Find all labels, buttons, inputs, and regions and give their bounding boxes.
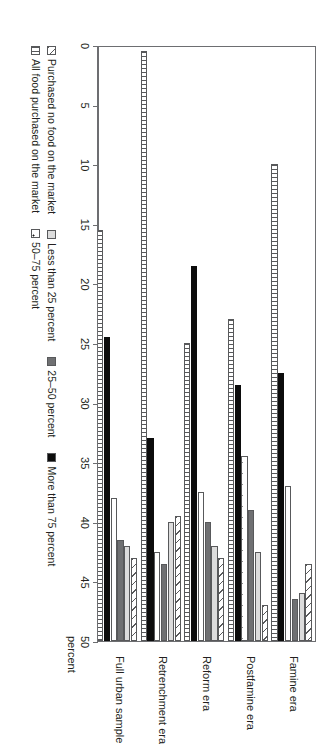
axis-tick-label: 5 xyxy=(79,103,91,109)
category-label-full-urban-sample: Full urban sample xyxy=(114,656,126,743)
legend-item: 50–75 percent xyxy=(30,229,42,309)
legend-item: Less than 25 percent xyxy=(46,230,58,341)
bar-full-urban-sample-less-than-25-percent xyxy=(124,546,130,641)
axis-tick xyxy=(93,46,98,47)
bar-famine-era-all-food-purchased-on-the-market xyxy=(271,164,277,641)
bar-reform-era-more-than-75-percent xyxy=(191,266,197,641)
axis-tick xyxy=(93,106,98,107)
legend-item: 25–50 percent xyxy=(46,357,58,437)
category-label-reform-era: Reform era xyxy=(201,656,213,711)
legend-swatch-icon xyxy=(32,46,41,55)
legend-row-1: Purchased no food on the marketLess than… xyxy=(46,46,58,646)
axis-tick-label: 20 xyxy=(79,278,91,290)
bar-famine-era-more-than-75-percent xyxy=(278,373,284,641)
bar-famine-era-50-75-percent xyxy=(285,486,291,641)
legend-label: 50–75 percent xyxy=(30,242,42,309)
bar-reform-era-less-than-25-percent xyxy=(211,546,217,641)
bar-famine-era-purchased-no-food-on-the-market xyxy=(305,564,311,641)
bar-full-urban-sample-purchased-no-food-on-the-market xyxy=(131,558,137,641)
legend-label: Purchased no food on the market xyxy=(46,59,58,214)
plot-area xyxy=(98,46,316,642)
bar-famine-era-25-50-percent xyxy=(292,599,298,641)
axis-tick xyxy=(93,225,98,226)
legend-swatch-icon xyxy=(32,229,41,238)
bar-postfamine-era-all-food-purchased-on-the-market xyxy=(228,319,234,641)
bar-postfamine-era-purchased-no-food-on-the-market xyxy=(262,605,268,641)
axis-tick-label: 10 xyxy=(79,159,91,171)
category-label-famine-era: Famine era xyxy=(288,656,300,712)
bar-reform-era-50-75-percent xyxy=(198,492,204,641)
axis-tick xyxy=(93,344,98,345)
legend-item: All food purchased on the market xyxy=(30,46,42,213)
bar-postfamine-era-25-50-percent xyxy=(248,510,254,641)
category-label-postfamine-era: Postfamine era xyxy=(245,656,257,730)
bar-reform-era-all-food-purchased-on-the-market xyxy=(184,343,190,641)
y-axis-line xyxy=(98,46,316,47)
legend-swatch-icon xyxy=(48,357,57,366)
axis-tick xyxy=(93,404,98,405)
legend-label: Less than 25 percent xyxy=(46,243,58,341)
axis-tick-label: 15 xyxy=(79,219,91,231)
legend-row-2: All food purchased on the market50–75 pe… xyxy=(30,46,42,646)
bar-retrenchment-era-purchased-no-food-on-the-market xyxy=(175,516,181,641)
legend-swatch-icon xyxy=(48,46,57,55)
legend-label: All food purchased on the market xyxy=(30,59,42,213)
legend-swatch-icon xyxy=(48,453,57,462)
bar-postfamine-era-50-75-percent xyxy=(241,456,247,641)
bar-famine-era-less-than-25-percent xyxy=(299,593,305,641)
bar-retrenchment-era-all-food-purchased-on-the-market xyxy=(141,51,147,641)
axis-tick xyxy=(93,165,98,166)
legend-label: 25–50 percent xyxy=(46,370,58,437)
axis-tick-label: 35 xyxy=(79,457,91,469)
bar-retrenchment-era-less-than-25-percent xyxy=(168,522,174,641)
bar-full-urban-sample-50-75-percent xyxy=(111,498,117,641)
category-label-retrenchment-era: Retrenchment era xyxy=(157,656,169,744)
bar-retrenchment-era-more-than-75-percent xyxy=(147,438,153,641)
legend-label: More than 75 percent xyxy=(46,466,58,566)
bar-postfamine-era-less-than-25-percent xyxy=(255,552,261,641)
bar-full-urban-sample-more-than-75-percent xyxy=(104,337,110,641)
axis-tick xyxy=(93,642,98,643)
bar-reform-era-purchased-no-food-on-the-market xyxy=(218,558,224,641)
bar-retrenchment-era-50-75-percent xyxy=(154,552,160,641)
axis-tick-label: 30 xyxy=(79,397,91,409)
axis-tick-label: 0 xyxy=(79,43,91,49)
bar-reform-era-25-50-percent xyxy=(205,522,211,641)
axis-tick-label: 40 xyxy=(79,517,91,529)
chart-legend: Purchased no food on the marketLess than… xyxy=(26,46,58,646)
axis-tick xyxy=(93,582,98,583)
axis-tick xyxy=(93,523,98,524)
axis-tick xyxy=(93,284,98,285)
bar-full-urban-sample-25-50-percent xyxy=(117,540,123,641)
axis-tick-label: 25 xyxy=(79,338,91,350)
x-axis-title: percent xyxy=(66,636,78,673)
legend-swatch-icon xyxy=(48,230,57,239)
axis-tick-label: 50 xyxy=(79,636,91,648)
legend-item: Purchased no food on the market xyxy=(46,46,58,214)
axis-tick xyxy=(93,463,98,464)
bar-postfamine-era-more-than-75-percent xyxy=(235,385,241,641)
bar-retrenchment-era-25-50-percent xyxy=(161,564,167,641)
axis-tick-label: 45 xyxy=(79,576,91,588)
legend-item: More than 75 percent xyxy=(46,453,58,566)
